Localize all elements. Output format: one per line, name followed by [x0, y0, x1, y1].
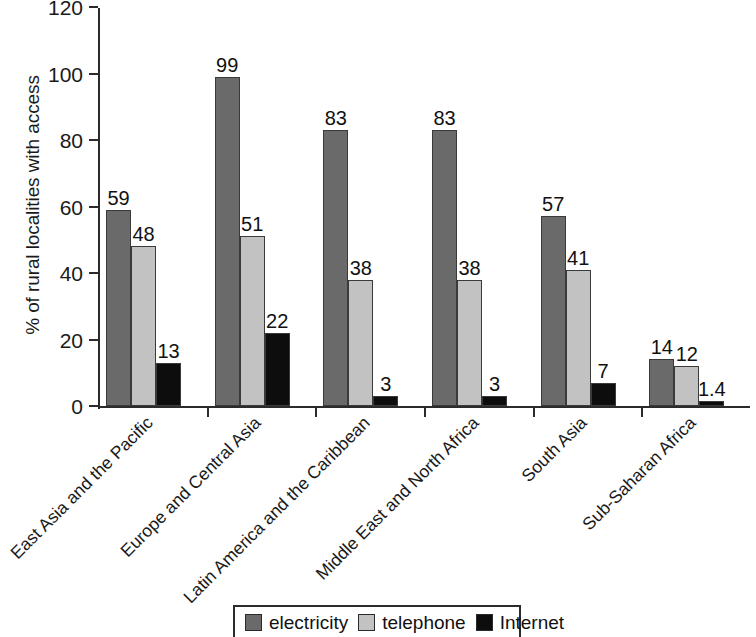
bar[interactable]: 48 — [131, 246, 156, 406]
y-axis-tick-label: 20 — [60, 329, 83, 350]
legend-item-label: Internet — [500, 613, 564, 632]
y-axis-tick-label: 60 — [60, 196, 83, 217]
bar-group: 995122 — [215, 7, 290, 406]
y-axis-line — [98, 8, 100, 409]
y-axis-tick-label: 0 — [71, 396, 83, 417]
y-axis-tick-label: 80 — [60, 130, 83, 151]
bar[interactable]: 41 — [566, 270, 591, 406]
bar[interactable]: 12 — [674, 366, 699, 406]
legend-item-label: electricity — [269, 613, 348, 632]
bar[interactable]: 57 — [541, 216, 566, 406]
bar-value-label: 83 — [325, 108, 347, 128]
x-axis-tick — [641, 408, 643, 417]
x-axis-tick — [533, 408, 535, 417]
bar-value-label: 22 — [266, 311, 288, 331]
legend-swatch-icon — [245, 614, 262, 631]
bar-value-label: 1.4 — [698, 379, 726, 399]
bar[interactable]: 13 — [156, 363, 181, 406]
bar-value-label: 57 — [542, 194, 564, 214]
bar-value-label: 59 — [107, 188, 129, 208]
y-axis-tick-label: 100 — [48, 63, 83, 84]
bar-chart: % of rural localities with access 020406… — [0, 0, 756, 637]
bar-value-label: 48 — [132, 224, 154, 244]
y-axis-tick: 80 — [89, 139, 98, 141]
y-axis-tick: 60 — [89, 206, 98, 208]
bar-value-label: 38 — [458, 258, 480, 278]
bar-value-label: 7 — [598, 361, 609, 381]
bar-value-label: 99 — [216, 55, 238, 75]
bar[interactable]: 7 — [591, 383, 616, 406]
y-axis-title: % of rural localities with access — [16, 0, 50, 410]
bar[interactable]: 1.4 — [699, 401, 724, 406]
bar[interactable]: 22 — [265, 333, 290, 406]
legend-item[interactable]: telephone — [358, 613, 465, 632]
legend-swatch-icon — [476, 614, 493, 631]
bar-value-label: 3 — [380, 374, 391, 394]
y-axis-tick-label: 40 — [60, 263, 83, 284]
bar[interactable]: 51 — [240, 236, 265, 406]
bar[interactable]: 38 — [457, 280, 482, 406]
bar-group: 594813 — [106, 7, 181, 406]
bar-value-label: 14 — [651, 337, 673, 357]
bar-value-label: 3 — [489, 374, 500, 394]
bar[interactable]: 83 — [432, 130, 457, 406]
legend-item[interactable]: electricity — [245, 613, 348, 632]
legend-swatch-icon — [358, 614, 375, 631]
x-axis-tick — [424, 408, 426, 417]
y-axis-tick-label: 120 — [48, 0, 83, 18]
bar-value-label: 38 — [350, 258, 372, 278]
bar[interactable]: 3 — [373, 396, 398, 406]
bar-value-label: 12 — [676, 344, 698, 364]
bar-group: 83383 — [323, 7, 398, 406]
y-axis-tick: 120 — [89, 6, 98, 8]
bar[interactable]: 3 — [482, 396, 507, 406]
bar[interactable]: 59 — [106, 210, 131, 406]
bar[interactable]: 83 — [323, 130, 348, 406]
x-axis-tick — [207, 408, 209, 417]
y-axis-tick: 100 — [89, 73, 98, 75]
y-axis-tick: 40 — [89, 272, 98, 274]
x-axis-tick — [315, 408, 317, 417]
bar-value-label: 51 — [241, 214, 263, 234]
bar-group: 83383 — [432, 7, 507, 406]
legend-item[interactable]: Internet — [476, 613, 564, 632]
bar-group: 14121.4 — [649, 7, 724, 406]
y-axis-tick: 0 — [89, 405, 98, 407]
bar-value-label: 13 — [157, 341, 179, 361]
bar[interactable]: 38 — [348, 280, 373, 406]
bar-group: 57417 — [541, 7, 616, 406]
bar-value-label: 83 — [433, 108, 455, 128]
y-axis-tick: 20 — [89, 339, 98, 341]
plot-area: 020406080100120 594813995122833838338357… — [98, 8, 750, 408]
legend-item-label: telephone — [382, 613, 465, 632]
bar-value-label: 41 — [567, 248, 589, 268]
bar[interactable]: 14 — [649, 359, 674, 406]
chart-legend: electricitytelephoneInternet — [233, 605, 521, 637]
bar[interactable]: 99 — [215, 77, 240, 406]
